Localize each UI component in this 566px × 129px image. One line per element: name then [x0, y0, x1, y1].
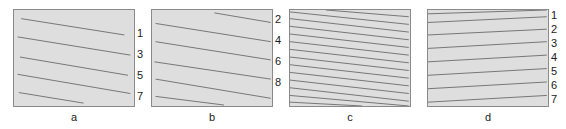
- panel-d: 1234567d: [0, 0, 566, 129]
- panel-d-plot-area: [427, 9, 549, 107]
- panel-d-tick-label-6: 6: [551, 80, 557, 91]
- panel-d-tick-label-5: 5: [551, 66, 557, 77]
- panel-d-tick-label-1: 1: [551, 10, 557, 21]
- pattern-line: [428, 55, 547, 62]
- pattern-line: [428, 69, 547, 76]
- pattern-line: [428, 17, 547, 23]
- panel-d-tick-label-7: 7: [551, 94, 557, 105]
- panel-d-tick-label-2: 2: [551, 24, 557, 35]
- panel-d-caption: d: [427, 111, 549, 123]
- pattern-line: [428, 82, 547, 89]
- panel-d-tick-labels: 1234567: [551, 0, 565, 129]
- panel-d-tick-label-4: 4: [551, 52, 557, 63]
- pattern-line: [428, 42, 547, 49]
- panel-d-line-pattern: [428, 10, 548, 106]
- pattern-line: [428, 95, 547, 102]
- figure-root: 1357a2468bc1234567d: [0, 0, 566, 129]
- pattern-line: [428, 10, 547, 14]
- pattern-line: [428, 29, 547, 35]
- panel-d-tick-label-3: 3: [551, 38, 557, 49]
